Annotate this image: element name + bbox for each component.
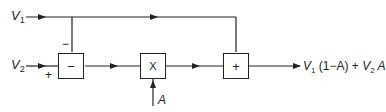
- a-arrow-icon: [150, 80, 156, 88]
- v1-mid-arrow-icon: [150, 14, 158, 20]
- mul-out-arrow-icon: [192, 63, 200, 69]
- v2-label: V2: [11, 58, 25, 74]
- output-arrow-icon: [293, 63, 301, 69]
- v1-arrow-icon: [38, 14, 46, 20]
- v1-label: V1: [11, 9, 25, 25]
- output-expression: V1 (1−A) + V2 A: [303, 60, 386, 75]
- adder-block: +: [223, 53, 249, 79]
- minus-sign-v1: −: [62, 38, 69, 50]
- adder-label: +: [232, 59, 240, 74]
- multiplier-label: X: [149, 60, 156, 72]
- a-label: A: [158, 94, 166, 106]
- subtractor-label: −: [67, 59, 75, 74]
- subtractor-block: −: [58, 53, 84, 79]
- sub-out-arrow-icon: [110, 63, 118, 69]
- multiplier-block: X: [140, 53, 166, 79]
- plus-sign-v2: +: [45, 69, 52, 81]
